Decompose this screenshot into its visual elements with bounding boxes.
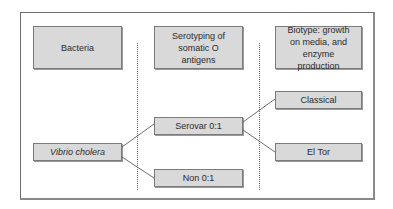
connector-lines [0, 0, 393, 209]
edge-vibrio-to-serovar [122, 124, 154, 147]
edge-serovar-to-eltor [243, 130, 275, 152]
edge-serovar-to-classical [243, 99, 275, 122]
edge-vibrio-to-non [122, 157, 154, 178]
